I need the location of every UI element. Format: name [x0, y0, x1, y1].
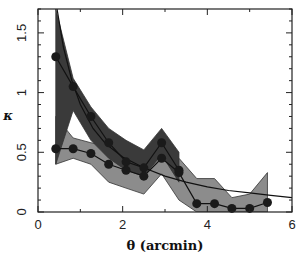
y-tick-label: 0.5	[14, 143, 29, 161]
y-tick-label: 1	[14, 89, 29, 96]
x-axis-label: θ (arcmin)	[127, 238, 204, 253]
data-point	[174, 168, 183, 177]
data-point	[157, 138, 166, 147]
data-point	[86, 112, 95, 121]
chart: 024600.511.5 θ (arcmin) κ	[0, 0, 301, 260]
y-tick-label: 0	[14, 208, 29, 215]
x-tick-label: 0	[34, 217, 41, 232]
data-point	[122, 166, 131, 175]
data-point	[51, 144, 60, 153]
y-axis-label: κ	[2, 108, 13, 123]
data-point	[192, 199, 201, 208]
data-point	[263, 198, 272, 207]
data-point	[69, 144, 78, 153]
data-point	[139, 172, 148, 181]
data-point	[86, 149, 95, 158]
data-point	[69, 82, 78, 91]
x-tick-label: 6	[288, 217, 295, 232]
x-tick-label: 4	[204, 217, 211, 232]
x-tick-label: 2	[119, 217, 126, 232]
data-point	[122, 157, 131, 166]
data-point	[51, 52, 60, 61]
data-point	[210, 199, 219, 208]
data-point	[104, 138, 113, 147]
data-point	[104, 160, 113, 169]
data-point	[139, 163, 148, 172]
data-point	[157, 154, 166, 163]
y-tick-label: 1.5	[14, 24, 29, 42]
